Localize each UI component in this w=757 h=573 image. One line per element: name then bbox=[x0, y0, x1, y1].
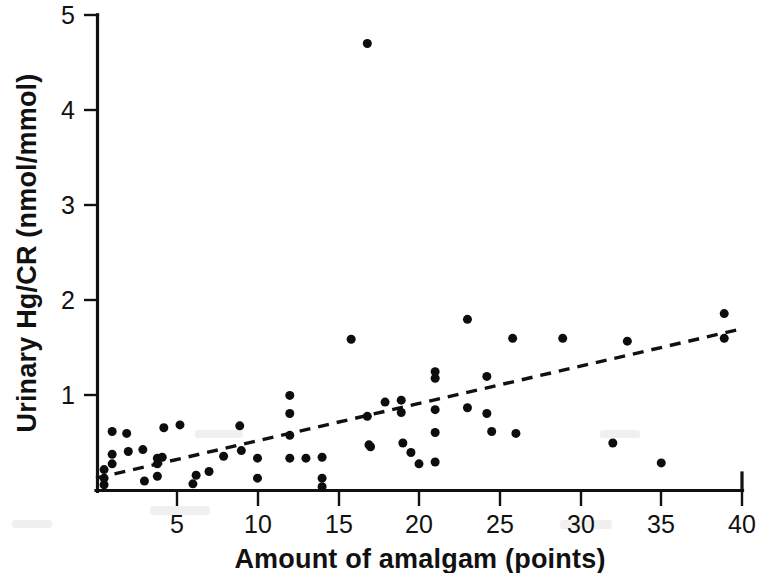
data-point bbox=[397, 396, 406, 405]
data-point bbox=[285, 409, 294, 418]
data-point bbox=[318, 482, 327, 491]
data-point bbox=[406, 448, 415, 457]
data-point bbox=[285, 454, 294, 463]
x-axis-title: Amount of amalgam (points) bbox=[234, 544, 605, 573]
data-point bbox=[108, 450, 117, 459]
data-point bbox=[138, 445, 147, 454]
x-tick-label-5: 5 bbox=[170, 510, 184, 538]
data-point bbox=[235, 421, 244, 430]
scatter-plot-figure: 5 4 3 2 1 5 10 15 20 25 30 35 40 Urinary… bbox=[0, 0, 757, 573]
data-point bbox=[482, 409, 491, 418]
data-point bbox=[511, 429, 520, 438]
x-tick-label-15: 15 bbox=[325, 510, 353, 538]
data-point bbox=[188, 479, 197, 488]
data-point bbox=[237, 446, 246, 455]
data-point bbox=[608, 438, 617, 447]
data-point bbox=[623, 337, 632, 346]
data-point bbox=[558, 334, 567, 343]
data-point bbox=[657, 458, 666, 467]
y-tick-label-1: 1 bbox=[61, 381, 75, 409]
data-point bbox=[463, 403, 472, 412]
data-point bbox=[431, 405, 440, 414]
x-tick-label-10: 10 bbox=[244, 510, 272, 538]
y-tick-label-2: 2 bbox=[61, 286, 75, 314]
data-point bbox=[301, 454, 310, 463]
x-tick-label-40: 40 bbox=[728, 510, 756, 538]
data-point bbox=[285, 431, 294, 440]
data-point bbox=[318, 474, 327, 483]
data-point bbox=[253, 474, 262, 483]
data-point bbox=[108, 427, 117, 436]
data-point bbox=[175, 420, 184, 429]
data-point bbox=[487, 427, 496, 436]
figure-background bbox=[0, 0, 757, 573]
plot-canvas: 5 4 3 2 1 5 10 15 20 25 30 35 40 Urinary… bbox=[0, 0, 757, 573]
data-point bbox=[124, 447, 133, 456]
data-point bbox=[318, 453, 327, 462]
data-point bbox=[100, 480, 109, 489]
x-tick-label-25: 25 bbox=[486, 510, 514, 538]
data-point bbox=[363, 412, 372, 421]
data-point bbox=[192, 471, 201, 480]
data-point bbox=[158, 453, 167, 462]
data-point bbox=[159, 423, 168, 432]
data-point bbox=[122, 429, 131, 438]
data-point bbox=[431, 367, 440, 376]
y-axis-title: Urinary Hg/CR (nmol/mmol) bbox=[12, 73, 42, 432]
data-point bbox=[205, 467, 214, 476]
data-point bbox=[153, 472, 162, 481]
y-tick-label-4: 4 bbox=[61, 96, 75, 124]
data-point bbox=[253, 454, 262, 463]
data-point bbox=[720, 334, 729, 343]
x-tick-label-30: 30 bbox=[567, 510, 595, 538]
data-point bbox=[720, 309, 729, 318]
data-point bbox=[415, 459, 424, 468]
y-tick-label-3: 3 bbox=[61, 191, 75, 219]
data-point bbox=[398, 438, 407, 447]
data-point bbox=[347, 335, 356, 344]
data-point bbox=[363, 39, 372, 48]
data-point bbox=[140, 476, 149, 485]
data-point bbox=[482, 372, 491, 381]
data-point bbox=[431, 457, 440, 466]
data-point bbox=[285, 391, 294, 400]
data-point bbox=[431, 428, 440, 437]
data-point bbox=[366, 442, 375, 451]
x-tick-label-20: 20 bbox=[405, 510, 433, 538]
y-tick-label-5: 5 bbox=[61, 1, 75, 29]
data-point bbox=[108, 459, 117, 468]
data-point bbox=[463, 315, 472, 324]
data-point bbox=[381, 398, 390, 407]
x-tick-label-35: 35 bbox=[647, 510, 675, 538]
data-point bbox=[397, 408, 406, 417]
data-point bbox=[219, 452, 228, 461]
data-point bbox=[100, 465, 109, 474]
data-point bbox=[508, 334, 517, 343]
